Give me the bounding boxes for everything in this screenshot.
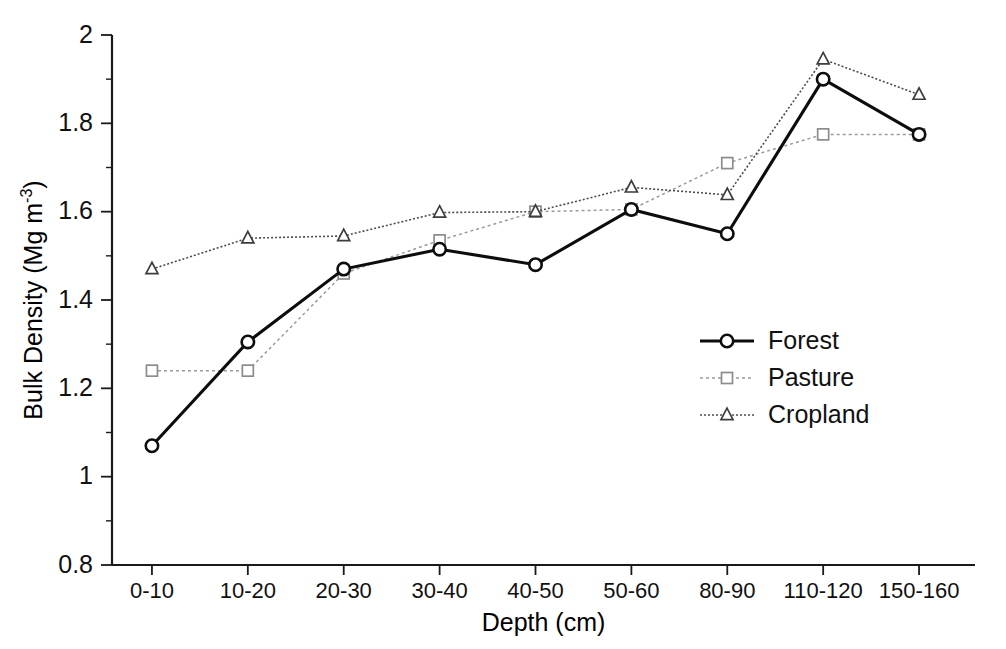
y-tick-label-0.8: 0.8: [58, 550, 93, 578]
series-pasture-point-0-marker-square: [146, 365, 157, 376]
series-forest-point-6-marker-circle: [721, 228, 733, 240]
y-axis-title-group: Bulk Density (Mg m-3): [18, 180, 47, 419]
series-cropland-line: [152, 59, 919, 269]
series-forest-point-1-marker-circle: [242, 336, 254, 348]
y-tick-label-1: 1: [79, 461, 93, 489]
y-axis-title-base: Bulk Density (Mg m: [19, 203, 47, 420]
series-pasture-point-7-marker-square: [818, 129, 829, 140]
legend-label-forest: Forest: [768, 326, 839, 354]
series-cropland-point-3-marker-triangle: [434, 206, 446, 217]
legend-label-pasture: Pasture: [768, 363, 854, 391]
legend-label-cropland: Cropland: [768, 400, 869, 428]
series-cropland: [146, 52, 925, 273]
legend-item-pasture[interactable]: Pasture: [700, 363, 854, 391]
series-forest-point-7-marker-circle: [817, 73, 829, 85]
series-forest: [146, 73, 926, 452]
y-tick-label-1.4: 1.4: [58, 285, 93, 313]
legend-item-cropland[interactable]: Cropland: [700, 400, 869, 428]
x-tick-label-150-160: 150-160: [879, 578, 960, 603]
x-axis-title: Depth (cm): [482, 608, 606, 636]
legend: ForestPastureCropland: [700, 326, 869, 428]
series-cropland-point-1-marker-triangle: [242, 231, 254, 242]
series-forest-point-0-marker-circle: [146, 440, 158, 452]
y-axis-title-tail: ): [19, 180, 47, 188]
series-pasture-point-1-marker-square: [242, 365, 253, 376]
x-tick-label-110-120: 110-120: [784, 578, 863, 603]
series-cropland-point-7-marker-triangle: [817, 52, 829, 63]
series-forest-point-3-marker-circle: [433, 243, 445, 255]
x-tick-label-10-20: 10-20: [220, 578, 276, 603]
y-axis-title: Bulk Density (Mg m-3): [18, 180, 47, 419]
x-tick-label-50-60: 50-60: [603, 578, 659, 603]
series-forest-point-4-marker-circle: [529, 258, 541, 270]
series-forest-point-5-marker-circle: [625, 203, 637, 215]
series-cropland-point-8-marker-triangle: [913, 88, 925, 99]
legend-pasture-marker-square: [722, 373, 733, 384]
x-tick-label-40-50: 40-50: [507, 578, 563, 603]
x-tick-label-80-90: 80-90: [699, 578, 755, 603]
bulk-density-depth-chart: 0.811.21.41.61.820-1010-2020-3030-4040-5…: [0, 0, 1006, 649]
series-forest-point-2-marker-circle: [338, 263, 350, 275]
legend-forest-marker-circle: [721, 335, 733, 347]
y-tick-label-1.8: 1.8: [58, 108, 93, 136]
y-axis-title-superscript: -3: [18, 189, 35, 203]
y-tick-label-2: 2: [79, 20, 93, 48]
series-pasture-point-6-marker-square: [722, 158, 733, 169]
legend-cropland-marker-triangle: [721, 408, 733, 419]
series-cropland-point-5-marker-triangle: [625, 181, 637, 192]
chart-canvas: 0.811.21.41.61.820-1010-2020-3030-4040-5…: [0, 0, 1006, 649]
x-tick-label-20-30: 20-30: [316, 578, 372, 603]
x-tick-label-0-10: 0-10: [130, 578, 174, 603]
legend-item-forest[interactable]: Forest: [700, 326, 839, 354]
series-forest-point-8-marker-circle: [913, 128, 925, 140]
y-tick-label-1.2: 1.2: [58, 373, 93, 401]
x-tick-label-30-40: 30-40: [411, 578, 467, 603]
y-tick-label-1.6: 1.6: [58, 196, 93, 224]
